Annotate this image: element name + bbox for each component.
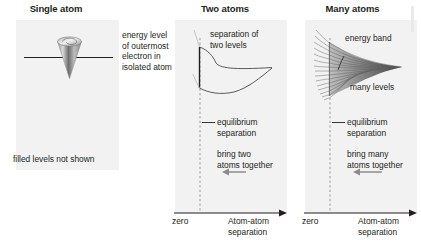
- energy-band-figure: Single atom: [0, 0, 421, 250]
- annotation-equilibrium-separation-two: equilibrium separation: [217, 117, 287, 138]
- panel-two-atoms: Two atoms: [160, 0, 290, 250]
- annotation-energy-band: energy band: [345, 33, 417, 44]
- annotation-equilibrium-separation-many: equilibrium separation: [347, 117, 417, 138]
- annotation-filled-levels: filled levels not shown: [13, 154, 143, 165]
- panel-single-atom: Single atom: [0, 0, 160, 250]
- axis-x-label-many-atoms: Atom-atom separation: [358, 216, 421, 237]
- lower-level-curve: [200, 68, 273, 93]
- lower-guide-tick: [193, 74, 200, 88]
- annotation-bring-many-atoms-together: bring many atoms together: [347, 149, 421, 170]
- page-edge-artifact: [411, 6, 414, 32]
- annotation-bring-two-atoms-together: bring two atoms together: [217, 149, 293, 170]
- panel-many-atoms: Many atoms: [290, 0, 421, 250]
- annotation-many-levels: many levels: [350, 82, 420, 93]
- upper-level-curve: [200, 47, 273, 69]
- axis-x-label-two-atoms: Atom-atom separation: [228, 216, 298, 237]
- annotation-separation-of-two-levels: separation of two levels: [210, 29, 292, 50]
- axis-origin-label-two-atoms: zero: [172, 216, 188, 227]
- upper-guide-tick: [194, 30, 200, 47]
- cone-body: [58, 42, 82, 79]
- axis-origin-label-many-atoms: zero: [302, 216, 318, 227]
